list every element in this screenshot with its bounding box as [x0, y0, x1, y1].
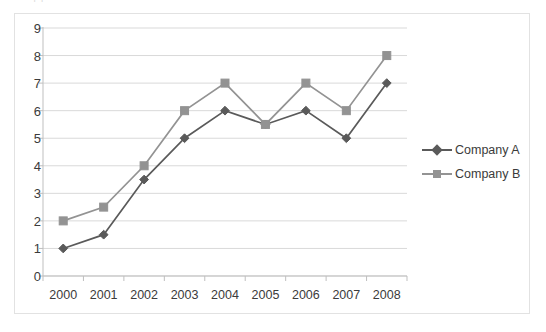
x-axis-tick-label: 2000 — [49, 288, 77, 302]
legend-marker-square-icon — [433, 170, 441, 178]
chart-container: 0123456789 20002001200220032004200520062… — [14, 13, 530, 314]
legend-key-square-icon — [422, 167, 452, 181]
y-axis-tick-label: 3 — [25, 186, 41, 201]
legend-item-1[interactable]: Company A — [422, 138, 527, 162]
y-axis-tick-label: 1 — [25, 241, 41, 256]
legend-label: Company A — [452, 143, 520, 157]
data-point-marker — [140, 162, 148, 170]
data-point-marker — [59, 244, 68, 253]
y-axis: 0123456789 — [19, 14, 41, 315]
legend-item-2[interactable]: Company B — [422, 162, 527, 186]
y-axis-tick-label: 9 — [25, 21, 41, 36]
x-axis: 200020012002200320042005200620072008 — [15, 276, 531, 306]
clipped-text-strip: clipped text line above chart — [0, 0, 546, 9]
x-axis-tick-label: 2001 — [90, 288, 118, 302]
chart-legend: Company ACompany B — [422, 138, 527, 186]
x-axis-tick-label: 2008 — [373, 288, 401, 302]
y-axis-tick-label: 6 — [25, 103, 41, 118]
data-point-marker — [221, 79, 229, 87]
x-axis-tick-label: 2004 — [211, 288, 239, 302]
x-axis-tick-label: 2002 — [130, 288, 158, 302]
data-point-marker — [383, 52, 391, 60]
x-axis-tick-label: 2005 — [252, 288, 280, 302]
data-point-marker — [181, 107, 189, 115]
y-axis-tick-label: 8 — [25, 48, 41, 63]
legend-marker-diamond-icon — [431, 144, 442, 155]
x-axis-tick-label: 2003 — [171, 288, 199, 302]
data-point-marker — [59, 217, 67, 225]
data-point-marker — [342, 107, 350, 115]
y-axis-tick-label: 7 — [25, 76, 41, 91]
x-axis-tick-label: 2007 — [332, 288, 360, 302]
y-axis-tick-label: 2 — [25, 213, 41, 228]
legend-label: Company B — [452, 167, 520, 181]
clipped-text: clipped text line above chart — [18, 0, 200, 2]
data-point-marker — [100, 203, 108, 211]
y-axis-tick-label: 4 — [25, 158, 41, 173]
x-axis-tick-label: 2006 — [292, 288, 320, 302]
legend-key-diamond-icon — [422, 143, 452, 157]
data-point-marker — [302, 79, 310, 87]
y-axis-tick-label: 5 — [25, 131, 41, 146]
data-point-marker — [261, 120, 269, 128]
